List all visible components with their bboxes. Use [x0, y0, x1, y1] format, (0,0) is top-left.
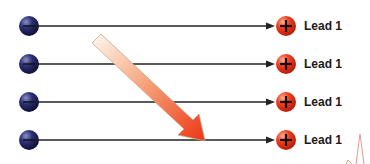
ecg-trace-icon [346, 134, 364, 164]
lead-label: Lead 1 [304, 133, 342, 147]
arrowhead-icon [266, 23, 275, 30]
depolarization-arrow-icon [92, 34, 205, 141]
arrowhead-icon [266, 137, 275, 144]
arrowhead-icon [266, 99, 275, 106]
lead-row-4 [19, 130, 296, 150]
lead-row-1 [19, 16, 296, 36]
lead-label: Lead 1 [304, 19, 342, 33]
lead-label: Lead 1 [304, 95, 342, 109]
arrowhead-icon [266, 61, 275, 68]
lead-row-2 [19, 54, 296, 74]
lead-label: Lead 1 [304, 57, 342, 71]
